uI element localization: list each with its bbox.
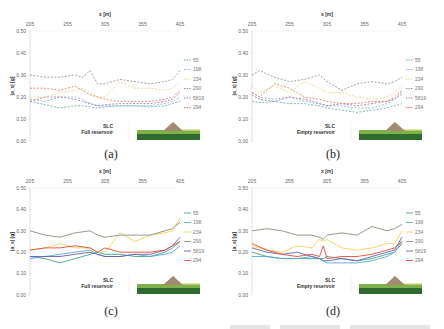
y-tick: 0.40 [238, 50, 248, 56]
series-line-234 [30, 218, 180, 252]
dam-cross-section-icon [129, 276, 200, 294]
series-line-198 [30, 97, 180, 106]
x-tick: 205 [26, 21, 35, 27]
annotation-reservoir: Empty reservoir [297, 283, 335, 289]
caption-d: (d) [313, 304, 353, 319]
y-tick: 0.10 [238, 270, 248, 276]
legend-label: 294 [415, 257, 424, 263]
y-tick: 0.30 [238, 228, 248, 234]
y-axis-label: |a_s| [g] [231, 232, 237, 251]
y-tick: 0.50 [238, 185, 248, 191]
annotation-reservoir: Full reservoir [81, 283, 113, 289]
series-line-5819 [30, 237, 180, 256]
y-tick: 0.10 [16, 270, 26, 276]
annotation-reservoir: Empty reservoir [297, 129, 335, 135]
y-tick: 0.50 [16, 185, 26, 191]
x-tick: 205 [26, 178, 35, 184]
legend-label: 198 [193, 219, 202, 225]
caption-a: (a) [91, 147, 131, 162]
legend-label: 55 [193, 57, 199, 63]
y-tick: 0.20 [16, 249, 26, 255]
series-line-290 [252, 71, 402, 91]
legend-label: 234 [415, 229, 424, 235]
series-line-234 [252, 231, 402, 252]
chart-panel-c: x [m]2052553053554050.000.100.200.300.40… [0, 165, 222, 329]
x-tick: 255 [285, 178, 294, 184]
x-tick: 305 [101, 21, 110, 27]
y-tick: 0.10 [16, 116, 26, 122]
x-tick: 205 [248, 21, 257, 27]
cropped-text-line [230, 325, 430, 329]
x-tick: 305 [323, 178, 332, 184]
y-tick: 0.00 [238, 292, 248, 298]
x-tick: 405 [176, 178, 185, 184]
x-tick: 405 [398, 178, 407, 184]
y-tick: 0.30 [16, 228, 26, 234]
series-line-294 [252, 84, 402, 104]
y-tick: 0.00 [16, 138, 26, 144]
x-axis-label: x [m] [321, 11, 333, 17]
legend-label: 294 [193, 257, 202, 263]
series-line-290 [30, 71, 180, 84]
x-tick: 405 [398, 21, 407, 27]
x-tick: 255 [285, 21, 294, 27]
legend-label: 290 [415, 238, 424, 244]
y-tick: 0.30 [238, 72, 248, 78]
x-tick: 355 [138, 178, 147, 184]
y-tick: 0.10 [238, 116, 248, 122]
legend-label: 198 [415, 219, 424, 225]
y-tick: 0.20 [16, 94, 26, 100]
y-tick: 0.50 [238, 28, 248, 34]
series-line-290 [30, 222, 180, 237]
chart-panel-b: x [m]2052553053554050.000.100.200.300.40… [222, 0, 444, 164]
y-tick: 0.40 [16, 206, 26, 212]
dam-cross-section-icon [351, 276, 422, 294]
x-tick: 305 [323, 21, 332, 27]
chart-panel-a: x [m]2052553053554050.000.100.200.300.40… [0, 0, 222, 164]
x-axis-label: x [m] [321, 168, 333, 174]
dam-cross-section-icon [129, 122, 200, 140]
y-tick: 0.40 [238, 206, 248, 212]
x-tick: 255 [63, 21, 72, 27]
legend-label: 290 [415, 85, 424, 91]
y-tick: 0.30 [16, 72, 26, 78]
legend-label: 290 [193, 238, 202, 244]
series-line-294 [30, 242, 180, 253]
y-axis-label: |a_s| [g] [9, 76, 15, 95]
chart-b: x [m]2052553053554050.000.100.200.300.40… [222, 0, 444, 164]
legend-label: 5819 [415, 95, 426, 101]
chart-a: x [m]2052553053554050.000.100.200.300.40… [0, 0, 222, 164]
y-axis-label: |a_s| [g] [231, 76, 237, 95]
x-tick: 205 [248, 178, 257, 184]
legend-label: 55 [193, 210, 199, 216]
x-tick: 355 [360, 178, 369, 184]
legend-label: 55 [415, 210, 421, 216]
x-axis-label: x [m] [99, 11, 111, 17]
x-tick: 355 [360, 21, 369, 27]
x-tick: 355 [138, 21, 147, 27]
legend-label: 198 [415, 66, 424, 72]
annotation-reservoir: Full reservoir [81, 129, 113, 135]
y-tick: 0.00 [16, 292, 26, 298]
y-tick: 0.20 [238, 94, 248, 100]
series-line-294 [30, 86, 180, 101]
dam-cross-section-icon [351, 122, 422, 140]
y-tick: 0.40 [16, 50, 26, 56]
legend-label: 234 [193, 229, 202, 235]
legend-label: 5819 [193, 95, 204, 101]
legend-label: 234 [193, 76, 202, 82]
legend-label: 234 [415, 76, 424, 82]
x-axis-label: x [m] [99, 168, 111, 174]
series-line-5819 [252, 93, 402, 106]
legend-label: 198 [193, 66, 202, 72]
x-tick: 405 [176, 21, 185, 27]
y-tick: 0.20 [238, 249, 248, 255]
y-axis-label: |a_s| [g] [9, 232, 15, 251]
legend-label: 5819 [415, 248, 426, 254]
caption-b: (b) [313, 147, 353, 162]
legend-label: 55 [415, 57, 421, 63]
legend-label: 290 [193, 85, 202, 91]
legend-label: 5819 [193, 248, 204, 254]
y-tick: 0.00 [238, 138, 248, 144]
x-tick: 305 [101, 178, 110, 184]
